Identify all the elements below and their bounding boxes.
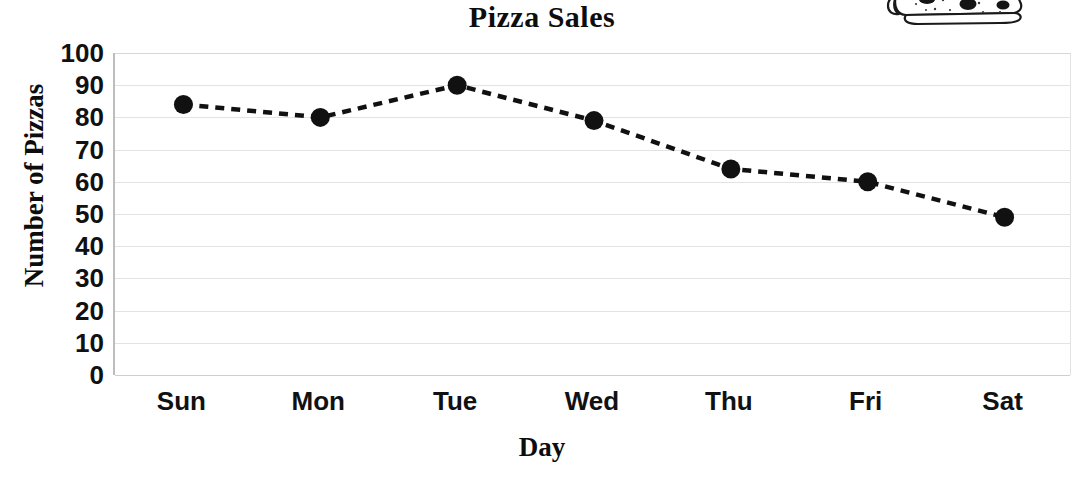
y-axis-tick-label: 80 bbox=[38, 104, 104, 130]
data-point-marker: Sat: 49 bbox=[995, 208, 1014, 227]
y-axis-tick-label: 40 bbox=[38, 233, 104, 259]
data-point-marker: Sun: 84 bbox=[174, 95, 193, 114]
x-axis-tick-label: Fri bbox=[791, 386, 941, 416]
x-axis-tick-label: Wed bbox=[517, 386, 667, 416]
data-point-marker: Mon: 80 bbox=[311, 108, 330, 127]
x-axis-tick-label: Sat bbox=[928, 386, 1078, 416]
data-point-marker: Fri: 60 bbox=[858, 172, 877, 191]
y-axis-tick-label: 90 bbox=[38, 72, 104, 98]
data-point-marker: Tue: 90 bbox=[448, 76, 467, 95]
x-axis-title: Day bbox=[0, 432, 1084, 463]
data-point-marker: Thu: 64 bbox=[721, 159, 740, 178]
y-axis-tick-label: 50 bbox=[38, 201, 104, 227]
y-axis-tick-label: 20 bbox=[38, 298, 104, 324]
x-axis-tick-label: Thu bbox=[654, 386, 804, 416]
y-axis-tick-label: 30 bbox=[38, 265, 104, 291]
y-axis-tick-label: 0 bbox=[38, 362, 104, 388]
x-axis-tick-label: Sun bbox=[106, 386, 256, 416]
data-point-marker: Wed: 79 bbox=[585, 111, 604, 130]
plot-area: Sun: 84Mon: 80Tue: 90Wed: 79Thu: 64Fri: … bbox=[113, 53, 1071, 375]
x-axis-tick-labels: SunMonTueWedThuFriSat bbox=[113, 386, 1071, 420]
y-axis-tick-label: 70 bbox=[38, 137, 104, 163]
y-axis-tick-label: 100 bbox=[38, 40, 104, 66]
y-axis-tick-label: 10 bbox=[38, 330, 104, 356]
series-line bbox=[183, 85, 1004, 217]
x-axis-tick-label: Tue bbox=[380, 386, 530, 416]
data-series-line: Sun: 84Mon: 80Tue: 90Wed: 79Thu: 64Fri: … bbox=[115, 53, 1073, 375]
y-axis-tick-label: 60 bbox=[38, 169, 104, 195]
gridline bbox=[115, 375, 1070, 376]
x-axis-tick-label: Mon bbox=[243, 386, 393, 416]
y-axis-tick-labels: 1009080706050403020100 bbox=[38, 53, 104, 375]
pizza-slice-icon bbox=[880, 0, 1030, 36]
